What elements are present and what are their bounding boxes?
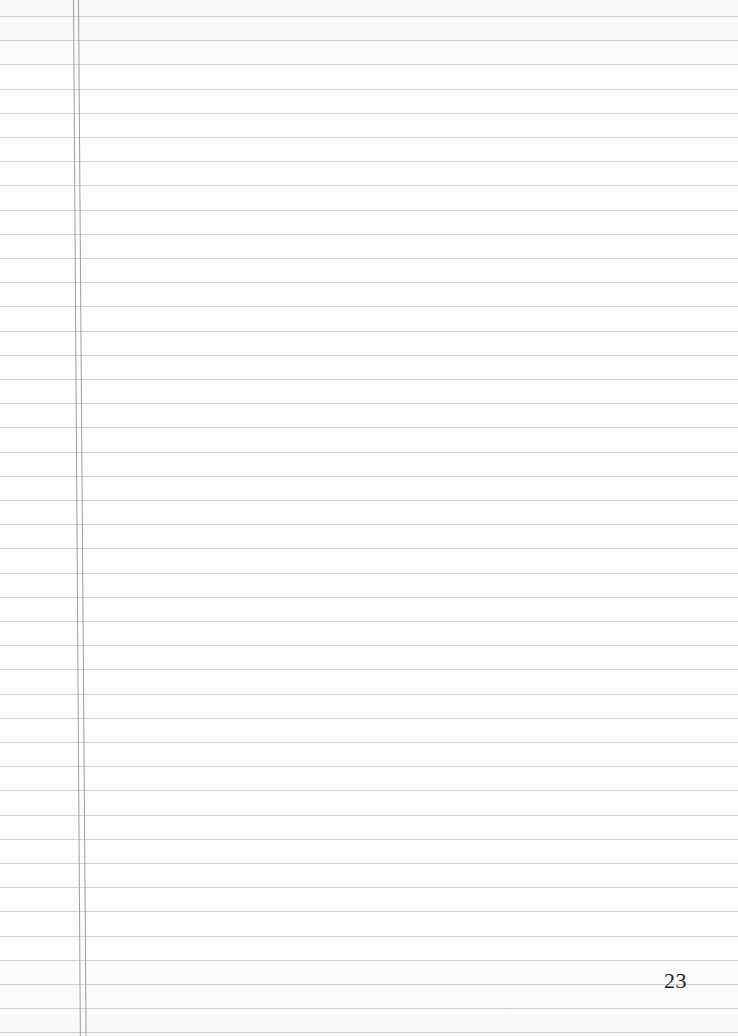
ruled-line [0,742,738,743]
ruled-line [0,887,738,888]
ruled-line [0,718,738,719]
page-number: 23 [664,968,687,994]
notebook-page: 23 [0,0,738,1036]
ruled-line [0,984,738,985]
ruled-line [0,427,738,428]
ruled-line [0,379,738,380]
ruled-line [0,645,738,646]
ruled-line [0,1008,738,1009]
ruled-line [0,669,738,670]
ruled-line [0,258,738,259]
ruled-line [0,210,738,211]
ruled-line [0,476,738,477]
ruled-line [0,1032,738,1033]
ruled-line [0,137,738,138]
ruled-line [0,355,738,356]
ruled-line [0,839,738,840]
ruled-line [0,548,738,549]
ruled-line [0,282,738,283]
ruled-line [0,911,738,912]
ruled-line [0,89,738,90]
ruled-line [0,960,738,961]
ruled-line [0,500,738,501]
ruled-line [0,790,738,791]
ruled-line [0,40,738,41]
ruled-line [0,621,738,622]
ruled-line [0,863,738,864]
ruled-line [0,113,738,114]
ruled-line [0,185,738,186]
ruled-line [0,306,738,307]
ruled-line [0,331,738,332]
ruled-line [0,573,738,574]
ruled-line [0,936,738,937]
ruled-line [0,694,738,695]
ruled-line [0,403,738,404]
ruled-line [0,64,738,65]
ruled-line [0,815,738,816]
ruled-line [0,452,738,453]
ruled-line [0,524,738,525]
ruled-line [0,16,738,17]
ruled-line [0,597,738,598]
ruled-line [0,161,738,162]
ruled-line [0,766,738,767]
ruled-line [0,234,738,235]
